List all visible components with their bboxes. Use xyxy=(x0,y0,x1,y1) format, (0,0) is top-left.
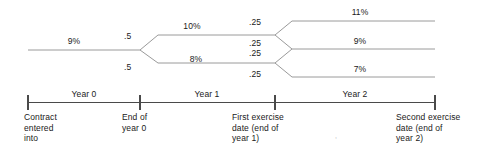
probability-label-down-year1: .5 xyxy=(124,62,131,72)
branch-down-up xyxy=(275,49,292,63)
caption-first-exercise-date: First exercise date (end of year 1) xyxy=(232,112,284,144)
probability-label-up-up-year2: .25 xyxy=(249,17,261,27)
branch-up-up xyxy=(275,21,435,35)
caption-end-of-year-0: End of year 0 xyxy=(122,112,147,133)
caption-contract-entered-into: Contract entered into xyxy=(24,112,57,144)
caption-second-exercise-date: Second exercise date (end of year 2) xyxy=(396,112,460,144)
scan-artifact-mark: , xyxy=(335,132,337,139)
probability-label-up-down-year2: .25 xyxy=(249,38,261,48)
rate-label-mid-year2: 9% xyxy=(354,36,367,46)
period-label-year-2: Year 2 xyxy=(343,89,368,99)
probability-label-up-year1: .5 xyxy=(124,31,131,41)
rate-label-initial: 9% xyxy=(68,36,81,46)
period-label-year-0: Year 0 xyxy=(72,89,97,99)
probability-label-down-up-year2: .25 xyxy=(249,48,261,58)
binomial-tree-figure: 9% 10% 8% 11% 9% 7% .5 .5 .25 .25 .25 .2… xyxy=(0,0,496,151)
probability-label-down-down-year2: .25 xyxy=(249,69,261,79)
period-label-year-1: Year 1 xyxy=(195,89,220,99)
rate-label-down-down-year2: 7% xyxy=(354,64,367,74)
rate-label-up-up-year2: 11% xyxy=(352,7,369,17)
rate-label-up-year1: 10% xyxy=(183,21,200,31)
rate-label-down-year1: 8% xyxy=(190,54,203,64)
